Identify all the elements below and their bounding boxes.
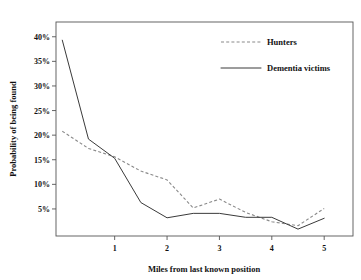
probability-line-chart: 5%10%15%20%25%30%35%40% 12345 HuntersDem… (0, 0, 361, 280)
x-tick-label: 4 (270, 244, 274, 253)
y-tick-label: 5% (38, 205, 50, 214)
y-axis-title: Probability of being found (8, 81, 18, 177)
legend-label: Hunters (267, 37, 297, 47)
x-tick-label: 3 (217, 244, 221, 253)
x-axis-title: Miles from last known position (148, 264, 261, 274)
y-tick-label: 15% (34, 156, 50, 165)
y-tick-label: 40% (34, 33, 50, 42)
y-tick-label: 20% (34, 131, 50, 140)
y-tick-label: 35% (34, 57, 50, 66)
y-tick-label: 25% (34, 107, 50, 116)
x-tick-label: 2 (165, 244, 169, 253)
y-tick-label: 30% (34, 82, 50, 91)
chart-figure: 5%10%15%20%25%30%35%40% 12345 HuntersDem… (0, 0, 361, 280)
x-tick-label: 5 (322, 244, 326, 253)
legend-label: Dementia victims (267, 63, 331, 73)
x-axis-ticks: 12345 (113, 236, 327, 253)
series-line-hunters (62, 131, 324, 225)
y-axis-ticks: 5%10%15%20%25%30%35%40% (34, 33, 56, 214)
y-tick-label: 10% (34, 180, 50, 189)
chart-legend: HuntersDementia victims (221, 37, 331, 73)
x-tick-label: 1 (113, 244, 117, 253)
